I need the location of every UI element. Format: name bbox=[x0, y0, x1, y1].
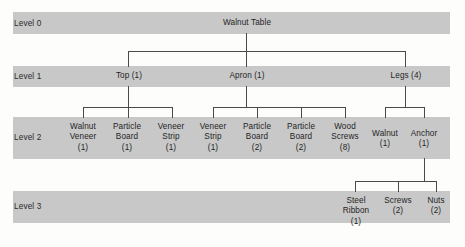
connector-level1-bus bbox=[128, 51, 405, 52]
node-particle-board-apron-1-line2: Board bbox=[243, 132, 271, 142]
level-label-2: Level 2 bbox=[14, 133, 41, 142]
connector-apron-down bbox=[246, 86, 247, 108]
node-steel-ribbon-qty: (1) bbox=[343, 217, 370, 227]
connector-veneer-strip-top-up bbox=[172, 107, 173, 118]
node-wood-screws-line1: Wood bbox=[331, 122, 358, 132]
connector-steel-ribbon-up bbox=[355, 181, 356, 192]
connector-veneer-strip-apron-up bbox=[213, 107, 214, 118]
node-wood-screws[interactable]: Wood Screws (8) bbox=[331, 122, 358, 153]
node-wood-screws-qty: (8) bbox=[331, 143, 358, 153]
node-nuts-line1: Nuts bbox=[427, 196, 444, 206]
node-steel-ribbon-line2: Ribbon bbox=[343, 206, 370, 216]
node-particle-board-apron-2-line2: Board bbox=[287, 132, 315, 142]
node-top[interactable]: Top (1) bbox=[116, 71, 142, 81]
connector-screws-up bbox=[398, 181, 399, 192]
node-veneer-strip-top-line1: Veneer bbox=[158, 122, 185, 132]
node-legs[interactable]: Legs (4) bbox=[391, 71, 422, 81]
node-particle-board-apron-2[interactable]: Particle Board (2) bbox=[287, 122, 315, 153]
node-walnut-line1: Walnut bbox=[372, 129, 398, 139]
node-particle-board-apron-1-qty: (2) bbox=[243, 143, 271, 153]
node-veneer-strip-top-line2: Strip bbox=[158, 132, 185, 142]
node-anchor-qty: (1) bbox=[411, 139, 438, 149]
node-walnut[interactable]: Walnut (1) bbox=[372, 129, 398, 150]
connector-wood-screws-up bbox=[345, 107, 346, 118]
connector-anchor-up bbox=[424, 107, 425, 118]
node-steel-ribbon-line1: Steel bbox=[343, 196, 370, 206]
connector-legs-up bbox=[405, 51, 406, 67]
node-particle-board-apron-2-line1: Particle bbox=[287, 122, 315, 132]
node-walnut-qty: (1) bbox=[372, 139, 398, 149]
connector-apron-bus bbox=[213, 107, 345, 108]
node-walnut-table-label: Walnut Table bbox=[223, 18, 271, 28]
node-particle-board-top[interactable]: Particle Board (1) bbox=[113, 122, 141, 153]
node-anchor-line1: Anchor bbox=[411, 129, 438, 139]
node-anchor[interactable]: Anchor (1) bbox=[411, 129, 438, 150]
connector-nuts-up bbox=[436, 181, 437, 192]
connector-top-up bbox=[128, 51, 129, 67]
node-nuts[interactable]: Nuts (2) bbox=[427, 196, 444, 217]
node-wood-screws-line2: Screws bbox=[331, 132, 358, 142]
node-apron[interactable]: Apron (1) bbox=[229, 71, 264, 81]
node-screws[interactable]: Screws (2) bbox=[384, 196, 411, 217]
connector-level3-bus bbox=[355, 181, 436, 182]
node-walnut-veneer[interactable]: Walnut Veneer (1) bbox=[70, 122, 97, 153]
node-legs-label: Legs (4) bbox=[391, 71, 422, 81]
node-walnut-veneer-line2: Veneer bbox=[70, 132, 97, 142]
level-label-0: Level 0 bbox=[14, 19, 41, 28]
node-walnut-table[interactable]: Walnut Table bbox=[223, 18, 271, 28]
level-label-3: Level 3 bbox=[14, 202, 41, 211]
node-veneer-strip-top[interactable]: Veneer Strip (1) bbox=[158, 122, 185, 153]
connector-walnut-up bbox=[385, 107, 386, 118]
node-particle-board-apron-1-line1: Particle bbox=[243, 122, 271, 132]
node-veneer-strip-apron-line2: Strip bbox=[200, 132, 227, 142]
node-particle-board-apron-2-qty: (2) bbox=[287, 143, 315, 153]
node-top-label: Top (1) bbox=[116, 71, 142, 81]
node-particle-board-top-qty: (1) bbox=[113, 143, 141, 153]
connector-top-down bbox=[128, 86, 129, 108]
connector-particle-board-a2-up bbox=[301, 107, 302, 118]
node-particle-board-top-line1: Particle bbox=[113, 122, 141, 132]
node-veneer-strip-apron-qty: (1) bbox=[200, 143, 227, 153]
level-label-1: Level 1 bbox=[14, 72, 41, 81]
bom-tree-diagram: Level 0 Level 1 Level 2 Level 3 Walnut T… bbox=[0, 0, 465, 247]
node-veneer-strip-apron-line1: Veneer bbox=[200, 122, 227, 132]
connector-anchor-down bbox=[424, 158, 425, 182]
node-particle-board-top-line2: Board bbox=[113, 132, 141, 142]
connector-particle-board-a1-up bbox=[257, 107, 258, 118]
connector-legs-down bbox=[405, 86, 406, 108]
connector-particle-board-top-up bbox=[128, 107, 129, 118]
node-walnut-veneer-line1: Walnut bbox=[70, 122, 97, 132]
node-nuts-qty: (2) bbox=[427, 206, 444, 216]
node-veneer-strip-top-qty: (1) bbox=[158, 143, 185, 153]
connector-walnut-veneer-up bbox=[83, 107, 84, 118]
node-steel-ribbon[interactable]: Steel Ribbon (1) bbox=[343, 196, 370, 227]
node-apron-label: Apron (1) bbox=[229, 71, 264, 81]
node-screws-line1: Screws bbox=[384, 196, 411, 206]
node-veneer-strip-apron[interactable]: Veneer Strip (1) bbox=[200, 122, 227, 153]
node-walnut-veneer-qty: (1) bbox=[70, 143, 97, 153]
node-particle-board-apron-1[interactable]: Particle Board (2) bbox=[243, 122, 271, 153]
node-screws-qty: (2) bbox=[384, 206, 411, 216]
connector-legs-bus bbox=[385, 107, 425, 108]
connector-root-down bbox=[246, 33, 247, 67]
